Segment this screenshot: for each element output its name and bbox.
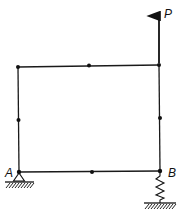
node-bottom-mid xyxy=(90,170,94,174)
load-p: P xyxy=(159,7,172,63)
spring-support-b: B xyxy=(144,166,176,209)
support-a-label: A xyxy=(4,166,13,180)
ground-hatch-b xyxy=(145,204,176,209)
node-top-right xyxy=(157,63,161,67)
spring xyxy=(156,172,164,203)
load-label: P xyxy=(164,7,172,21)
support-b-label: B xyxy=(168,166,176,180)
nodes xyxy=(16,63,162,174)
frame-members xyxy=(18,65,160,172)
node-left-mid xyxy=(17,118,21,122)
frame-diagram: P A xyxy=(0,0,186,222)
member-bottom xyxy=(19,171,160,172)
node-right-mid xyxy=(158,116,162,120)
node-top-mid xyxy=(87,64,91,68)
ground-hatch-a xyxy=(6,183,34,188)
node-top-left xyxy=(16,65,20,69)
